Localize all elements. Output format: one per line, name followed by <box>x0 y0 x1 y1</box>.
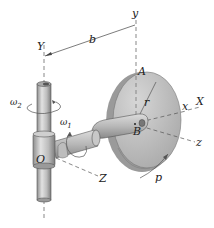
label-Y: Y <box>37 41 44 52</box>
omega2-subscript: 2 <box>17 102 21 110</box>
label-Z: Z <box>99 173 107 184</box>
label-B: B <box>133 126 141 137</box>
label-b: b <box>89 34 96 45</box>
label-z: z <box>196 137 202 148</box>
label-omega2: ω2 <box>10 98 22 110</box>
horizontal-shaft <box>52 130 100 158</box>
diagram-canvas: Y y b A r x X B z Z O p ω1 ω2 <box>0 0 214 228</box>
label-omega1: ω1 <box>60 118 72 130</box>
label-X: X <box>196 96 204 107</box>
vertical-shaft <box>33 82 55 203</box>
label-x: x <box>182 101 188 112</box>
label-O: O <box>36 154 45 165</box>
omega1-subscript: 1 <box>67 122 71 130</box>
Z-axis-line <box>56 158 98 176</box>
label-A: A <box>138 66 146 77</box>
label-r: r <box>144 97 149 108</box>
label-p: p <box>155 172 162 183</box>
mechanism-drawing <box>0 0 214 228</box>
label-y: y <box>132 8 138 19</box>
